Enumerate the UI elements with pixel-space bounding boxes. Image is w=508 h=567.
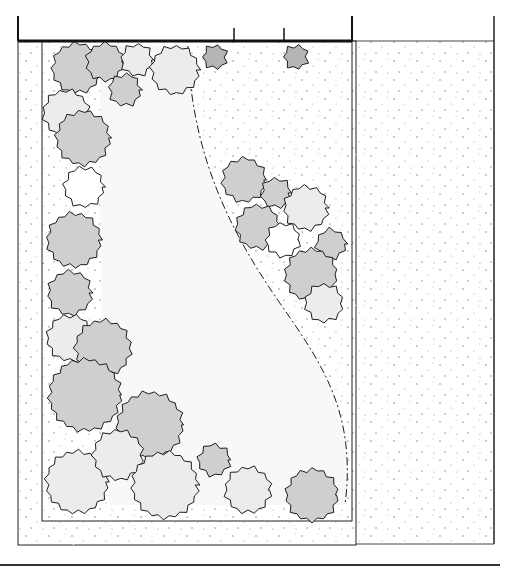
shrub-icon (224, 466, 272, 514)
garden-plan (0, 0, 508, 567)
